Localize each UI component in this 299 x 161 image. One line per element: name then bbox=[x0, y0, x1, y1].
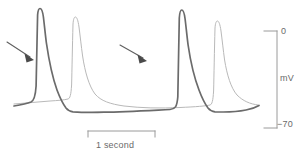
voltage-scale-top-label: 0 bbox=[281, 27, 286, 36]
voltage-scalebar bbox=[264, 31, 277, 128]
time-scale-label: 1 second bbox=[96, 141, 134, 150]
voltage-trace-figure: 0 mV −70 1 second bbox=[0, 0, 299, 161]
voltage-scale-unit-label: mV bbox=[280, 74, 294, 83]
annotation-arrow-2 bbox=[120, 45, 147, 64]
time-scalebar bbox=[88, 131, 155, 137]
trace-dark-path bbox=[14, 9, 259, 113]
trace-plot bbox=[0, 0, 299, 161]
annotation-arrow-1 bbox=[7, 42, 34, 63]
trace-light-path bbox=[14, 17, 258, 108]
voltage-scale-bottom-label: −70 bbox=[277, 120, 293, 129]
